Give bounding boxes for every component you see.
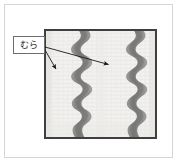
defect-photograph-image <box>46 31 155 137</box>
fabric-edge-shade-left <box>46 31 52 137</box>
figure-container: むら <box>0 0 179 164</box>
fabric-mid-shade <box>96 31 105 137</box>
callout-box-mura: むら <box>13 36 45 54</box>
defect-photograph-panel <box>44 29 157 139</box>
callout-label-mura: むら <box>20 41 38 50</box>
fabric-edge-shade-right <box>149 31 155 137</box>
